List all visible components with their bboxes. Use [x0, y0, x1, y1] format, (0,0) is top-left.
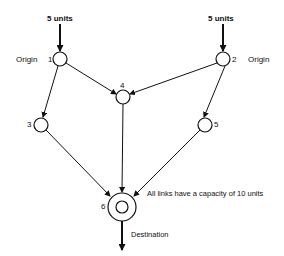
link-5-6 [134, 130, 200, 196]
link-3-6 [46, 130, 110, 196]
origin-label-left: Origin [16, 56, 37, 64]
link-2-5 [204, 66, 225, 117]
node-2 [216, 52, 230, 66]
destination-label: Destination [131, 231, 169, 239]
node-5-label: 5 [214, 121, 218, 129]
node-6-label: 6 [101, 203, 105, 211]
supply-label-left: 5 units [47, 15, 73, 23]
origin-label-right: Origin [248, 56, 269, 64]
node-2-label: 2 [232, 56, 236, 64]
node-3-label: 3 [27, 121, 31, 129]
node-1-label: 1 [48, 56, 52, 64]
node-4 [116, 90, 130, 104]
link-2-4 [130, 63, 217, 94]
node-1 [53, 52, 67, 66]
link-1-3 [43, 66, 58, 117]
link-4-6 [122, 104, 123, 192]
node-3 [34, 118, 48, 132]
capacity-note: All links have a capacity of 10 units [147, 190, 263, 198]
link-1-4 [66, 63, 116, 94]
network-diagram [0, 0, 284, 256]
node-4-label: 4 [120, 82, 124, 90]
node-6-inner [116, 201, 128, 213]
supply-label-right: 5 units [208, 15, 234, 23]
node-5 [198, 118, 212, 132]
